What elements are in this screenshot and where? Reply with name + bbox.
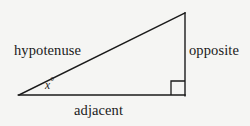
triangle-figure [0, 0, 250, 126]
angle-label: x° [45, 78, 54, 91]
degree-symbol-icon: ° [50, 77, 54, 87]
opposite-label: opposite [189, 43, 239, 58]
right-triangle-diagram: hypotenuse opposite adjacent x° [0, 0, 250, 126]
adjacent-label: adjacent [74, 103, 123, 118]
right-angle-marker [171, 81, 185, 95]
hypotenuse-label: hypotenuse [14, 43, 81, 58]
